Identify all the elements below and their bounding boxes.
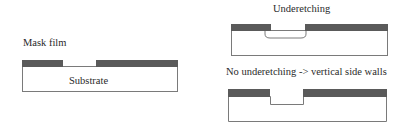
mask-film-left — [228, 89, 270, 97]
isotropic-etch-profile — [265, 31, 306, 38]
mask-film-right — [305, 24, 388, 31]
underetching-title: Underetching — [273, 4, 330, 15]
substrate-label: Substrate — [69, 76, 108, 87]
etching-diagram — [0, 0, 410, 127]
underetching-panel — [231, 24, 388, 56]
mask-film-label: Mask film — [23, 38, 66, 49]
substrate — [232, 31, 388, 56]
vertical-walls-panel — [228, 89, 387, 122]
vertical-walls-title: No underetching -> vertical side walls — [226, 67, 387, 78]
substrate-with-trench — [229, 97, 387, 122]
mask-film-left — [231, 24, 271, 31]
mask-film-right — [96, 60, 178, 67]
mask-film-left — [22, 60, 63, 67]
mask-film-right — [303, 89, 387, 97]
